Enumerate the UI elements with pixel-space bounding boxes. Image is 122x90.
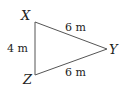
side-yz-label: 6 m [65,66,86,79]
vertex-z-label: Z [22,72,33,87]
vertex-y-label: Y [109,42,119,57]
triangle-diagram: X Y Z 6 m 6 m 4 m [0,0,122,90]
side-xz-label: 4 m [7,42,28,55]
vertex-x-label: X [20,8,31,23]
side-xy-label: 6 m [65,21,86,34]
